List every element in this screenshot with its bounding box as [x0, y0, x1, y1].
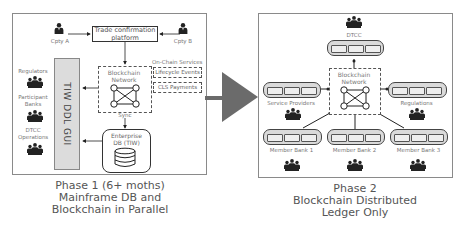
- group-icon: [409, 159, 427, 171]
- group-icon: [284, 108, 302, 120]
- member-bank-1-label: Member Bank 1: [263, 147, 320, 154]
- member-bank-2-label: Member Bank 2: [326, 147, 383, 154]
- member-bank-3-chain: [390, 129, 448, 145]
- regulations-chain: [388, 82, 447, 98]
- dtcc-chain: [327, 40, 384, 56]
- network-icon: [340, 86, 370, 110]
- member-bank-3-label: Member Bank 3: [390, 147, 447, 154]
- member-bank-2-chain: [327, 129, 385, 145]
- dtcc-label: DTCC: [339, 32, 369, 39]
- service-providers-label: Service Providers: [261, 100, 321, 107]
- blockchain-network-label-2: Blockchain Network: [329, 72, 379, 85]
- group-icon: [346, 159, 364, 171]
- p2-cap3: Ledger Only: [275, 207, 435, 219]
- member-bank-1-chain: [263, 129, 322, 145]
- service-providers-chain: [263, 82, 321, 98]
- phase2-caption: Phase 2 Blockchain Distributed Ledger On…: [275, 183, 435, 219]
- group-icon: [345, 16, 363, 28]
- group-icon: [283, 159, 301, 171]
- regulations-label: Regulations: [394, 100, 439, 107]
- bn2-line2: Network: [329, 79, 379, 86]
- group-icon: [408, 108, 426, 120]
